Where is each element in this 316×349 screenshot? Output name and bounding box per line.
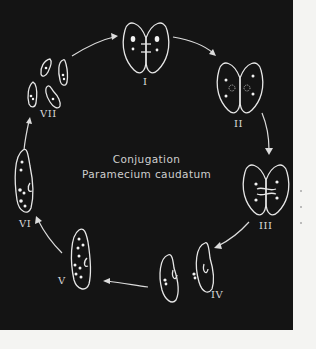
stage-label-V: V xyxy=(58,275,66,286)
stage-II-cells xyxy=(217,63,263,113)
stage-V-cells xyxy=(71,229,90,289)
stage-label-III: III xyxy=(259,220,272,231)
diagram-subtitle: Paramecium caudatum xyxy=(0,168,293,180)
stage-I-cells xyxy=(123,23,169,73)
stage-label-II: II xyxy=(234,118,243,129)
conjugation-cycle-diagram xyxy=(0,0,293,330)
stage-label-IV: IV xyxy=(211,289,223,300)
page-edge-marks xyxy=(300,190,302,250)
stage-label-VI: VI xyxy=(19,218,31,229)
diagram-title: Conjugation xyxy=(0,153,293,165)
stage-label-VII: VII xyxy=(40,108,57,119)
stage-IV-cells xyxy=(160,243,213,302)
stage-label-I: I xyxy=(143,76,147,87)
stage-VII-cells xyxy=(28,59,67,108)
